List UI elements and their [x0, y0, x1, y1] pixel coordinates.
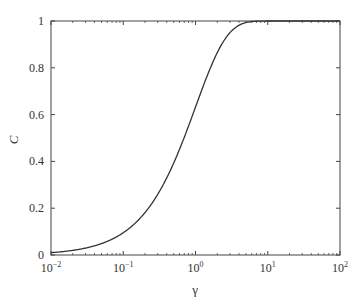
y-tick-label: 0.2 [29, 201, 44, 215]
chart: 10−210−1100101102 00.20.40.60.81 γ C [0, 0, 362, 302]
x-tick-label: 102 [332, 260, 348, 275]
x-tick-label: 10−2 [41, 260, 62, 275]
y-tick-label: 0.4 [29, 154, 44, 168]
x-tick-label: 10−1 [113, 260, 134, 275]
y-tick-label: 1 [38, 14, 44, 28]
plot-axes [51, 21, 340, 255]
data-line [51, 21, 340, 253]
x-tick-label: 101 [260, 260, 276, 275]
y-tick-label: 0.6 [29, 108, 44, 122]
x-axis-ticks: 10−210−1100101102 [41, 21, 348, 275]
x-tick-label: 100 [188, 260, 204, 275]
y-tick-label: 0.8 [29, 61, 44, 75]
y-axis-label: C [6, 135, 21, 144]
y-tick-label: 0 [38, 248, 44, 262]
x-axis-label: γ [191, 282, 198, 297]
